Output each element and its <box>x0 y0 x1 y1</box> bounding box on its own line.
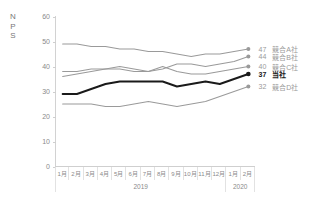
x-axis-month-label: 2月 <box>69 167 83 180</box>
x-axis-month-label: 12月 <box>212 167 226 180</box>
x-axis-year-label: 2019 <box>55 180 226 192</box>
x-axis-month-label: 7月 <box>141 167 155 180</box>
series-name: 競合B社 <box>272 52 298 62</box>
x-axis-month-label: 4月 <box>98 167 112 180</box>
series-line <box>63 74 249 94</box>
series-end-value: 44 <box>253 53 266 60</box>
series-end-marker <box>246 55 250 59</box>
x-axis-month-label: 11月 <box>198 167 212 180</box>
series-end-marker <box>246 47 250 51</box>
series-end-marker <box>246 72 251 77</box>
series-end-label: 37当社 <box>253 69 286 79</box>
x-axis-month-label: 8月 <box>155 167 169 180</box>
series-end-label: 44競合B社 <box>253 52 298 62</box>
series-line <box>63 44 249 57</box>
x-axis-month-label: 10月 <box>184 167 198 180</box>
x-axis-month-label: 9月 <box>169 167 183 180</box>
series-end-label: 32競合D社 <box>253 82 298 92</box>
x-axis-month-label: 1月 <box>55 167 69 180</box>
x-axis-month-label: 5月 <box>112 167 126 180</box>
series-line <box>63 67 249 77</box>
series-name: 当社 <box>272 69 286 79</box>
series-name: 競合D社 <box>272 82 298 92</box>
series-end-marker <box>246 65 250 69</box>
x-axis-month-label: 6月 <box>126 167 140 180</box>
series-end-value: 32 <box>253 83 266 90</box>
x-axis-year-label: 2020 <box>226 180 255 192</box>
x-axis-month-label: 1月 <box>226 167 240 180</box>
series-end-value: 37 <box>253 71 266 78</box>
chart-container: NPS 0102030405060 1月2月3月4月5月6月7月8月9月10月1… <box>0 0 332 209</box>
series-end-marker <box>246 85 250 89</box>
x-axis-month-label: 3月 <box>84 167 98 180</box>
x-axis-month-label: 2月 <box>241 167 255 180</box>
